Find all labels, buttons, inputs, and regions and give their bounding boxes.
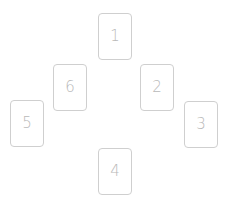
card-5[interactable]: 5 bbox=[10, 100, 44, 147]
card-number: 3 bbox=[196, 117, 206, 132]
card-1[interactable]: 1 bbox=[98, 13, 132, 60]
card-number: 1 bbox=[110, 29, 120, 44]
card-4[interactable]: 4 bbox=[98, 148, 132, 195]
card-number: 2 bbox=[152, 80, 162, 95]
card-6[interactable]: 6 bbox=[53, 64, 87, 111]
card-2[interactable]: 2 bbox=[140, 64, 174, 111]
card-number: 5 bbox=[22, 116, 32, 131]
card-number: 4 bbox=[110, 164, 120, 179]
card-number: 6 bbox=[65, 80, 75, 95]
card-3[interactable]: 3 bbox=[184, 101, 218, 148]
